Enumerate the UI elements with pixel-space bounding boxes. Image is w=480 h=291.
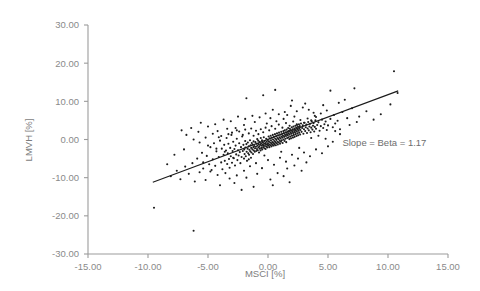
scatter-point: [314, 115, 316, 117]
scatter-point: [297, 134, 299, 136]
scatter-point: [280, 137, 282, 139]
scatter-point: [193, 138, 195, 140]
y-tick-label: -20.00: [52, 210, 79, 221]
scatter-point: [240, 146, 242, 148]
scatter-point: [332, 141, 334, 143]
scatter-point: [270, 135, 272, 137]
scatter-point: [236, 159, 238, 161]
scatter-point: [308, 129, 310, 131]
scatter-point: [235, 145, 237, 147]
scatter-point: [287, 134, 289, 136]
scatter-point: [261, 167, 263, 169]
scatter-point: [281, 139, 283, 141]
scatter-point: [308, 109, 310, 111]
scatter-point: [217, 174, 219, 176]
scatter-point: [304, 103, 306, 105]
scatter-point: [279, 143, 281, 145]
scatter-point: [219, 140, 221, 142]
scatter-point: [299, 133, 301, 135]
scatter-point: [326, 109, 328, 111]
scatter-point: [298, 132, 300, 134]
scatter-point: [230, 120, 232, 122]
scatter-point: [285, 141, 287, 143]
scatter-point: [292, 121, 294, 123]
scatter-point: [196, 158, 198, 160]
scatter-point: [293, 134, 295, 136]
scatter-point: [358, 116, 360, 118]
scatter-point: [296, 132, 298, 134]
scatter-point: [179, 178, 181, 180]
scatter-point: [255, 130, 257, 132]
scatter-point: [220, 161, 222, 163]
scatter-point: [256, 173, 258, 175]
scatter-point: [277, 143, 279, 145]
scatter-point: [272, 184, 274, 186]
x-tick-label: -5.00: [197, 261, 219, 272]
scatter-point: [285, 135, 287, 137]
scatter-point: [380, 113, 382, 115]
scatter-point: [241, 156, 243, 158]
scatter-point: [176, 170, 178, 172]
scatter-point: [275, 144, 277, 146]
scatter-point: [332, 126, 334, 128]
y-tick-label: 20.00: [55, 58, 79, 69]
scatter-point: [293, 116, 295, 118]
x-tick-label: 15.00: [436, 261, 460, 272]
scatter-point: [307, 117, 309, 119]
scatter-point: [202, 167, 204, 169]
y-tick-label: -30.00: [52, 248, 79, 259]
scatter-point: [253, 140, 255, 142]
scatter-point: [292, 132, 294, 134]
scatter-point: [298, 130, 300, 132]
scatter-point: [265, 113, 267, 115]
scatter-point: [199, 142, 201, 144]
scatter-point: [221, 148, 223, 150]
scatter-point: [250, 127, 252, 129]
scatter-point: [262, 131, 264, 133]
scatter-point: [302, 106, 304, 108]
scatter-point: [302, 133, 304, 135]
scatter-point: [303, 122, 305, 124]
scatter-point: [329, 90, 331, 92]
scatter-point: [304, 130, 306, 132]
scatter-point: [201, 152, 203, 154]
scatter-point: [339, 133, 341, 135]
scatter-point: [278, 132, 280, 134]
scatter-point: [197, 131, 199, 133]
chart-annotations: Slope = Beta = 1.17: [342, 137, 426, 148]
scatter-point: [226, 137, 228, 139]
scatter-point: [303, 151, 305, 153]
scatter-point: [235, 153, 237, 155]
scatter-point: [188, 173, 190, 175]
y-tick-label: 10.00: [55, 96, 79, 107]
scatter-point: [229, 147, 231, 149]
scatter-point: [223, 119, 225, 121]
scatter-point: [293, 164, 295, 166]
scatter-point: [238, 142, 240, 144]
scatter-point: [251, 115, 253, 117]
scatter-point: [245, 155, 247, 157]
scatter-point: [191, 162, 193, 164]
scatter-point: [323, 123, 325, 125]
scatter-point: [393, 70, 395, 72]
scatter-point: [217, 130, 219, 132]
scatter-point: [262, 94, 264, 96]
scatter-point: [233, 182, 235, 184]
scatter-point: [257, 133, 259, 135]
scatter-point: [277, 172, 279, 174]
y-tick-label: 30.00: [55, 19, 79, 30]
scatter-point: [181, 129, 183, 131]
scatter-point: [243, 170, 245, 172]
scatter-point: [231, 132, 233, 134]
scatter-point: [286, 114, 288, 116]
scatter-point: [301, 170, 303, 172]
scatter-point: [232, 157, 234, 159]
scatter-point: [229, 177, 231, 179]
scatter-point: [263, 136, 265, 138]
scatter-point: [219, 184, 221, 186]
scatter-point: [226, 163, 228, 165]
scatter-point: [207, 145, 209, 147]
scatter-point: [310, 137, 312, 139]
scatter-point: [249, 139, 251, 141]
scatter-point: [194, 180, 196, 182]
